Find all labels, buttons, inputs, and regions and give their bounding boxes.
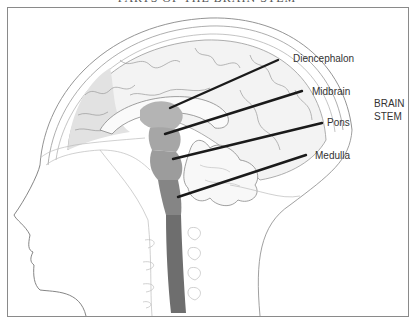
label-midbrain: Midbrain [312,86,350,97]
face-profile [14,165,86,316]
spinal-cord [166,215,186,313]
label-diencephalon: Diencephalon [293,53,354,64]
pons-region [150,150,182,180]
brain-stem-group-label: BRAIN STEM [374,97,405,123]
label-medulla: Medulla [315,150,350,161]
head-sagittal-illustration [0,0,414,326]
brain-stem-label-line1: BRAIN [374,97,405,110]
label-pons: Pons [327,117,350,128]
brain-stem-label-line2: STEM [374,110,405,123]
